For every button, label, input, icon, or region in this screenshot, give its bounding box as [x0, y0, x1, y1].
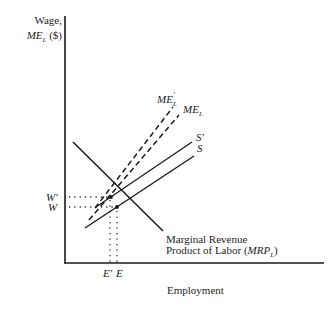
y-axis-label-line2: MEL ($) — [14, 29, 62, 43]
me-l-prime-curve — [95, 107, 173, 208]
mrp-curve — [73, 142, 163, 231]
me-l-prime-label: ME'L — [157, 93, 177, 107]
w-prime-point — [109, 195, 113, 199]
e-label: E — [116, 267, 123, 279]
w-label: W — [48, 201, 57, 213]
mrp-label: Marginal Revenue Product of Labor (MRPL) — [166, 234, 278, 258]
e-prime-label: E' — [103, 267, 112, 279]
mrp-label-line2: Product of Labor (MRPL) — [166, 245, 278, 258]
w-point — [115, 205, 119, 209]
s-curve — [85, 156, 194, 228]
monopsony-diagram — [0, 0, 336, 309]
x-axis-label: Employment — [167, 284, 224, 296]
y-axis-label-line1: Wage, — [14, 14, 62, 26]
s-label: S — [197, 142, 203, 154]
me-l-label: MEL — [183, 103, 203, 117]
y-axis-label: Wage, MEL ($) — [14, 14, 62, 43]
me-l-curve — [89, 115, 179, 220]
